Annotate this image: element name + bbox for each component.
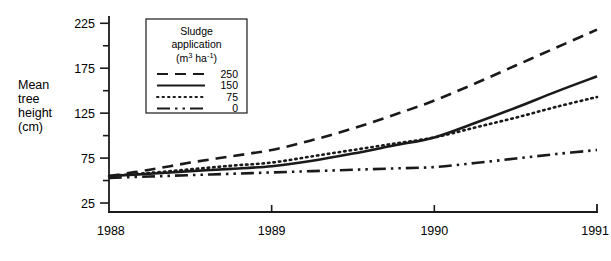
x-axis-tick-label: 1990 bbox=[420, 224, 448, 238]
x-axis-tick-label: 1989 bbox=[258, 224, 286, 238]
chart-container: Mean tree height (cm) 2575125175225 1988… bbox=[0, 0, 611, 261]
legend-unit-end: ) bbox=[214, 52, 218, 64]
legend-title-line-0: Sludge bbox=[180, 25, 213, 37]
legend-title-line-1: application bbox=[171, 38, 221, 50]
y-axis-tick-label: 25 bbox=[81, 197, 95, 211]
y-axis-label-line-0: Mean bbox=[18, 78, 49, 92]
y-axis-label-line-2: height bbox=[18, 106, 53, 120]
x-axis-tick-label: 1991 bbox=[581, 224, 609, 238]
y-axis-tick-labels: 2575125175225 bbox=[74, 17, 95, 211]
legend-label-0: 0 bbox=[232, 102, 238, 114]
legend-label-250: 250 bbox=[220, 68, 238, 80]
y-axis-tick-label: 225 bbox=[74, 17, 95, 31]
y-axis-label-line-3: (cm) bbox=[18, 120, 43, 134]
legend-label-75: 75 bbox=[226, 91, 238, 103]
legend-unit-sup-minus1: -1 bbox=[207, 51, 214, 60]
y-axis-tick-label: 125 bbox=[74, 107, 95, 121]
y-axis-label-line-1: tree bbox=[18, 92, 40, 106]
legend-unit-base: (m bbox=[176, 52, 188, 64]
x-axis-tick-labels: 1988198919901991 bbox=[97, 224, 609, 238]
y-axis-tick-label: 175 bbox=[74, 62, 95, 76]
legend-label-150: 150 bbox=[220, 79, 238, 91]
x-axis-ticks bbox=[272, 205, 435, 212]
x-axis-tick-label: 1988 bbox=[97, 224, 125, 238]
y-axis-tick-label: 75 bbox=[81, 152, 95, 166]
line-chart: Mean tree height (cm) 2575125175225 1988… bbox=[0, 0, 611, 261]
legend: Sludge application (m3 ha-1) 250150750 bbox=[146, 19, 247, 114]
y-axis-label: Mean tree height (cm) bbox=[18, 78, 53, 134]
y-axis-ticks bbox=[100, 23, 109, 203]
legend-unit-mid: ha bbox=[192, 52, 207, 64]
